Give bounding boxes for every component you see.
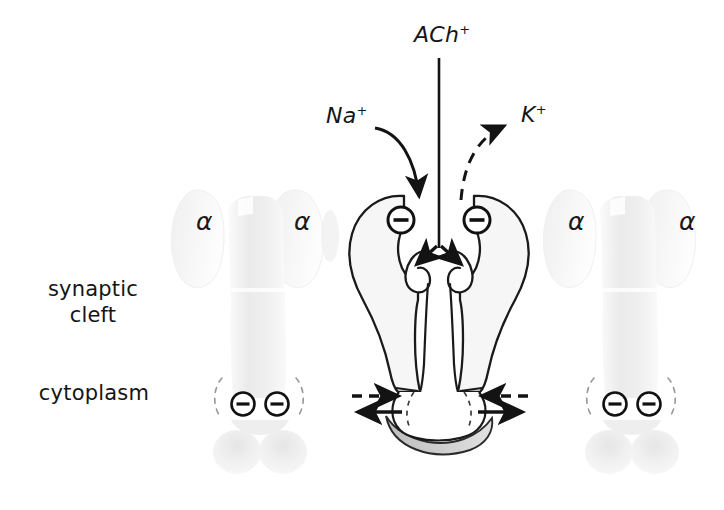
label-cytoplasm: cytoplasm (14, 381, 174, 407)
label-synaptic-cleft-line2: cleft (18, 303, 168, 329)
label-sodium-base: Na (326, 103, 357, 128)
ghost-trunk-left (228, 196, 286, 398)
ghost-lobe-right-outer (543, 190, 596, 288)
ghost-subunit-complex-right (543, 190, 695, 474)
label-synaptic-cleft: synaptic cleft (18, 277, 168, 328)
diagram-canvas: synaptic cleft cytoplasm ACh+ Na+ K+ α α… (0, 0, 724, 510)
label-acetylcholine: ACh+ (414, 22, 470, 47)
ghost-cyto-ring-right (668, 378, 675, 418)
ghost-edge-fragment-left (321, 210, 339, 262)
receptor-vestibule (392, 392, 485, 441)
label-synaptic-cleft-line1: synaptic (18, 277, 168, 303)
receptor-binding-pocket-right (448, 252, 473, 292)
receptor-pore-wall-right (450, 284, 458, 392)
ghost-cyto-ring-left-right (296, 378, 303, 418)
label-alpha-left-outer: α (196, 207, 212, 236)
label-potassium-charge: + (536, 102, 547, 117)
receptor-pore-wall-left (420, 284, 428, 392)
label-alpha-left-inner: α (294, 207, 310, 236)
arrow-k-efflux (461, 126, 504, 200)
label-sodium: Na+ (326, 103, 367, 128)
ghost-membrane-band-left (231, 288, 287, 292)
ghost-cyto-ring-left (215, 378, 222, 418)
label-potassium-base: K (521, 102, 536, 127)
ghost-trunk-right (600, 196, 658, 398)
negative-charge-left-ghost-2 (266, 393, 289, 416)
negative-charge-right-ghost-2 (638, 393, 661, 416)
ghost-foot-left-a (213, 430, 261, 474)
ghost-foot-right-b (631, 430, 679, 474)
ghost-lobe-left-outer (171, 190, 224, 288)
arrow-pore-split-left (417, 246, 437, 264)
ghost-cyto-ring-right-left (587, 378, 594, 418)
arrow-pore-split-right (441, 246, 461, 264)
ghost-foot-left-b (259, 430, 307, 474)
label-potassium: K+ (521, 102, 547, 127)
negative-charge-left-ghost-1 (232, 393, 255, 416)
label-alpha-right-outer: α (679, 207, 695, 236)
negative-charge-receptor-left (388, 207, 414, 233)
label-sodium-charge: + (357, 103, 368, 118)
ghost-foot-right-a (585, 430, 633, 474)
label-acetylcholine-charge: + (459, 22, 470, 37)
label-alpha-right-inner: α (568, 207, 584, 236)
receptor-binding-pocket-left (405, 252, 430, 292)
negative-charge-right-ghost-1 (604, 393, 627, 416)
negative-charge-receptor-right (464, 207, 490, 233)
ghost-membrane-band-right (603, 288, 659, 292)
receptor-diagram-svg (0, 0, 724, 510)
arrow-na-influx (375, 128, 419, 196)
label-acetylcholine-base: ACh (414, 22, 459, 47)
